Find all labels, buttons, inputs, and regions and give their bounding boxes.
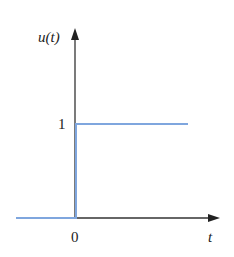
y-axis-label: u(t) [38,30,60,45]
step-function-plot [0,0,234,257]
x-tick-label: 0 [71,230,79,245]
step-signal [16,124,188,218]
y-tick-label: 1 [58,117,66,132]
x-axis-label: t [208,230,212,245]
y-axis-arrow-icon [71,28,79,40]
x-axis-arrow-icon [208,214,220,222]
